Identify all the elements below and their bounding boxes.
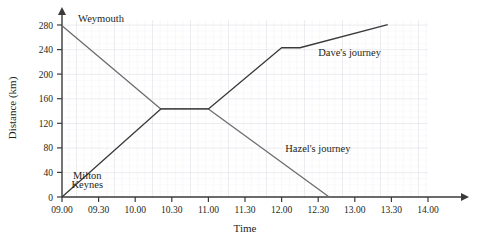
x-axis-title: Time <box>234 222 257 234</box>
series-label: Dave's journey <box>318 47 382 58</box>
y-tick-label: 280 <box>39 21 54 31</box>
x-axis-tick-labels: 09.00 09.30 10.00 10.30 11.00 11.30 12.0… <box>51 205 439 215</box>
x-tick-label: 09.30 <box>88 205 110 215</box>
x-tick-label: 10.30 <box>161 205 183 215</box>
y-tick-label: 160 <box>39 94 54 104</box>
chart-canvas: 0 40 80 120 160 200 240 280 09.00 09. <box>0 0 490 240</box>
series-label: Hazel's journey <box>285 143 351 154</box>
annotation-milton-keynes-line2: Keynes <box>72 179 104 190</box>
x-tick-label: 11.30 <box>234 205 255 215</box>
y-axis-title: Distance (km) <box>6 76 19 139</box>
y-axis-tick-labels: 0 40 80 120 160 200 240 280 <box>39 21 54 203</box>
y-tick-label: 80 <box>44 143 54 153</box>
y-tick-label: 40 <box>44 168 54 178</box>
x-tick-label: 10.00 <box>125 205 147 215</box>
x-tick-label: 14.00 <box>417 205 439 215</box>
distance-time-chart: 0 40 80 120 160 200 240 280 09.00 09. <box>0 0 490 240</box>
y-tick-label: 0 <box>48 193 53 203</box>
x-tick-label: 11.00 <box>198 205 219 215</box>
y-tick-label: 120 <box>39 119 54 129</box>
x-axis-ticks <box>62 197 428 202</box>
x-tick-label: 13.30 <box>381 205 403 215</box>
x-tick-label: 12.00 <box>271 205 293 215</box>
y-tick-label: 200 <box>39 70 54 80</box>
annotation-weymouth: Weymouth <box>78 13 125 24</box>
x-tick-label: 13.00 <box>344 205 366 215</box>
y-axis-ticks <box>57 25 62 197</box>
x-tick-label: 09.00 <box>51 205 73 215</box>
y-tick-label: 240 <box>39 45 54 55</box>
x-tick-label: 12.30 <box>308 205 330 215</box>
